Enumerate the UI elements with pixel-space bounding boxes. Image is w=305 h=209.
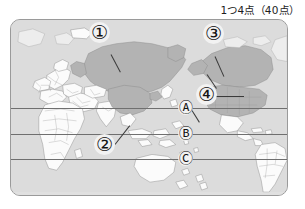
lat-line-c [11,159,287,160]
marker-b-label: Ⓑ [179,126,193,140]
lat-line-a [11,108,287,109]
map-marker-a[interactable]: Ⓐ [178,100,193,115]
marker-3-label: ③ [205,24,222,43]
world-map-figure: .ld { fill:#fbfbfb; stroke:#8a8a8a; stro… [10,19,288,196]
worksheet-page: 1つ4点（40点） .ld { fill:#fbfbfb; stroke:#8a… [0,0,305,209]
map-marker-3[interactable]: ③ [203,23,224,44]
marker-1-label: ① [91,23,108,42]
map-marker-b[interactable]: Ⓑ [178,126,193,141]
marker-a-label: Ⓐ [179,100,193,114]
map-marker-4[interactable]: ④ [196,84,217,105]
map-marker-2[interactable]: ② [94,134,115,155]
marker-2-label: ② [96,135,113,154]
map-marker-c[interactable]: Ⓒ [178,151,193,166]
map-canvas: .ld { fill:#fbfbfb; stroke:#8a8a8a; stro… [11,20,287,195]
leader-line-4b [216,96,244,97]
lat-line-b [11,134,287,135]
score-note: 1つ4点（40点） [220,2,299,17]
marker-4-label: ④ [198,85,215,104]
marker-c-label: Ⓒ [179,151,193,165]
map-marker-1[interactable]: ① [89,22,110,43]
